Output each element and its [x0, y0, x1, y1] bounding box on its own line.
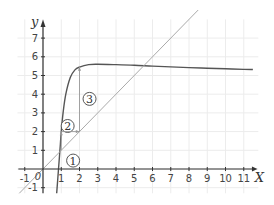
grid [17, 19, 258, 193]
circled-label-text: 1 [70, 155, 77, 168]
x-tick-label: 11 [237, 173, 250, 184]
axes: -11234567891011-112345670Xy [18, 14, 264, 193]
y-tick-label: 2 [32, 126, 38, 137]
x-tick-label: 3 [95, 173, 101, 184]
series-layer [19, 10, 253, 193]
y-tick-label: 7 [32, 33, 38, 44]
x-tick-label: 2 [76, 173, 82, 184]
x-tick-label: 1 [58, 173, 64, 184]
y-tick-label: 1 [32, 145, 38, 156]
chart: -11234567891011-112345670Xy 123 [0, 0, 274, 205]
y-tick-label: 3 [32, 107, 38, 118]
x-tick-label: 10 [219, 173, 232, 184]
y-tick-label: -1 [28, 182, 38, 193]
y-axis-label: y [30, 14, 39, 29]
x-tick-label: 9 [204, 173, 210, 184]
annotations: 123 [60, 67, 96, 168]
circled-label-text: 2 [64, 120, 71, 133]
origin-label: 0 [35, 171, 41, 182]
x-tick-label: 8 [186, 173, 192, 184]
y-tick-label: 6 [32, 51, 38, 62]
x-tick-label: 7 [168, 173, 174, 184]
circled-label-text: 3 [86, 93, 93, 106]
y-tick-label: 5 [32, 70, 38, 81]
x-tick-label: 6 [149, 173, 155, 184]
x-tick-label: 5 [131, 173, 137, 184]
arrowhead-icon [60, 132, 63, 136]
x-axis-label: X [254, 170, 265, 185]
series-line-y-equals-x [19, 10, 198, 193]
x-tick-label: 4 [113, 173, 119, 184]
y-axis-arrow-icon [41, 19, 46, 26]
y-tick-label: 4 [32, 89, 38, 100]
